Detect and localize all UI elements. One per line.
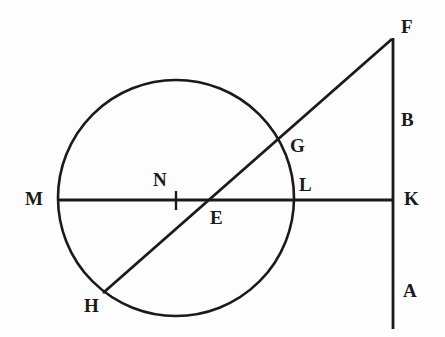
- label-L: L: [299, 175, 312, 194]
- label-B: B: [401, 110, 414, 129]
- line-H-to-F: [103, 39, 392, 293]
- label-H: H: [84, 296, 99, 315]
- geometry-figure: FBGLNMKEAH: [0, 0, 445, 337]
- label-K: K: [404, 189, 419, 208]
- geometry-canvas: [0, 0, 445, 337]
- label-E: E: [210, 208, 223, 227]
- label-N: N: [153, 170, 167, 189]
- label-A: A: [403, 281, 417, 300]
- label-F: F: [401, 17, 413, 36]
- label-G: G: [290, 136, 305, 155]
- label-M: M: [25, 189, 43, 208]
